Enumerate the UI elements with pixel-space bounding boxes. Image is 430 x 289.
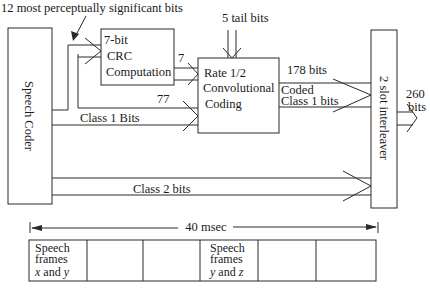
speech-coding-diagram: 12 most perceptually significant bits Sp…	[0, 0, 430, 289]
cell1-line3: x and y	[34, 265, 70, 279]
arrow-class1-to-conv: 77 Class 1 Bits	[52, 92, 198, 131]
crc-block: 7-bit CRC Computation	[101, 29, 174, 85]
class1-count: 77	[157, 92, 170, 106]
cell4-line3: y and z	[209, 265, 244, 279]
frame-row: Speech frames x and y Speech frames y an…	[29, 240, 376, 281]
tail-bits-label: 5 tail bits	[222, 11, 269, 25]
annotation-pointer-arrow	[71, 16, 86, 41]
timeline-40msec: 40 msec	[30, 220, 378, 234]
arrow-tail-bits: 5 tail bits	[222, 11, 269, 58]
arrow-speech-to-crc	[52, 38, 101, 110]
top-annotation: 12 most perceptually significant bits	[1, 1, 183, 15]
interleaver-block: 2 slot interleaver	[371, 30, 397, 208]
conv-output-count: 178 bits	[287, 63, 327, 77]
convolutional-coding-block: Rate 1/2 Convolutional Coding	[198, 58, 279, 133]
class2-label: Class 2 bits	[133, 182, 191, 196]
arrow-conv-to-interleaver: 178 bits Coded Class 1 bits	[279, 63, 371, 112]
output-unit: bits	[408, 100, 426, 114]
output-count: 260	[406, 87, 425, 101]
timeline-label: 40 msec	[185, 220, 227, 234]
conv-label-line3: Coding	[205, 97, 243, 111]
speech-coder-block: Speech Coder	[8, 28, 52, 204]
crc-label-line3: Computation	[106, 65, 172, 79]
conv-label-line2: Convolutional	[203, 81, 275, 95]
crc-output-count: 7	[178, 51, 184, 65]
cell1-line2: frames	[35, 252, 68, 266]
arrow-output: 260 bits	[397, 87, 426, 132]
speech-coder-label: Speech Coder	[22, 81, 36, 152]
cell4-line2: frames	[210, 252, 243, 266]
frame-cell-4: Speech frames y and z	[209, 241, 245, 279]
conv-label-line1: Rate 1/2	[204, 66, 246, 80]
frame-cell-1: Speech frames x and y	[34, 241, 70, 279]
arrow-crc-to-conv: 7	[174, 51, 198, 85]
interleaver-label: 2 slot interleaver	[377, 76, 391, 161]
conv-output-label-2: Class 1 bits	[281, 94, 339, 108]
crc-label-line1: 7-bit	[104, 33, 128, 47]
class1-label: Class 1 Bits	[80, 111, 140, 125]
arrow-class2-to-interleaver: Class 2 bits	[52, 171, 371, 201]
crc-label-line2: CRC	[107, 49, 132, 63]
